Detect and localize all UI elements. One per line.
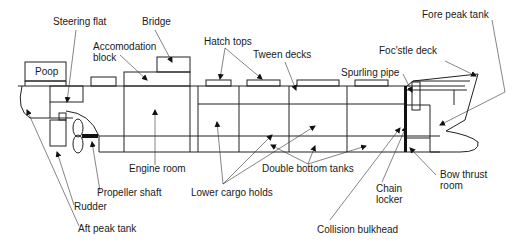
label-accommodation-1: Accomodation (93, 41, 156, 52)
label-double-bottom-tanks: Double bottom tanks (262, 163, 354, 174)
label-poop: Poop (35, 66, 59, 77)
label-spurling-pipe: Spurling pipe (341, 67, 400, 78)
labels: Steering flat Bridge Accomodation block … (35, 9, 490, 235)
label-accommodation-2: block (93, 52, 117, 63)
label-engine-room: Engine room (129, 163, 186, 174)
label-steering-flat: Steering flat (53, 16, 107, 27)
label-lower-cargo-holds: Lower cargo holds (191, 187, 273, 198)
hull-structure (18, 57, 478, 153)
label-bridge: Bridge (142, 16, 171, 27)
ship-diagram: Steering flat Bridge Accomodation block … (0, 0, 521, 246)
label-hatch-tops: Hatch tops (204, 36, 252, 47)
label-aft-peak-tank: Aft peak tank (78, 223, 137, 234)
label-propeller-shaft: Propeller shaft (97, 187, 162, 198)
label-bow-thrust-2: room (440, 180, 463, 191)
label-tween-decks: Tween decks (253, 49, 311, 60)
label-fore-peak-tank: Fore peak tank (422, 9, 490, 20)
label-focstle-deck: Foc'stle deck (379, 45, 438, 56)
label-bow-thrust-1: Bow thrust (440, 169, 487, 180)
label-collision-bulkhead: Collision bulkhead (317, 224, 398, 235)
label-chain-1: Chain (376, 183, 402, 194)
label-chain-2: locker (376, 194, 403, 205)
label-rudder: Rudder (74, 201, 107, 212)
